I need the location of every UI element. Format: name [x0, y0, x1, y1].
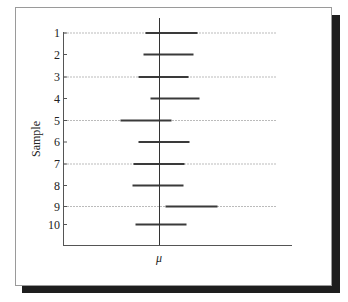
interval-chart: 12345678910 μ Sample [0, 0, 348, 302]
y-ticks: 12345678910 [48, 26, 67, 232]
tick-label: 10 [48, 218, 60, 232]
tick-label: 3 [54, 70, 60, 84]
y-axis-title: Sample [29, 121, 43, 157]
tick-label: 2 [54, 48, 60, 62]
tick-label: 5 [54, 114, 60, 128]
interval-bars [121, 33, 218, 225]
tick-label: 6 [54, 135, 60, 149]
tick-label: 7 [54, 157, 60, 171]
mu-label: μ [155, 251, 162, 265]
tick-label: 1 [54, 26, 60, 40]
tick-label: 9 [54, 200, 60, 214]
tick-label: 8 [54, 179, 60, 193]
tick-label: 4 [54, 92, 60, 106]
